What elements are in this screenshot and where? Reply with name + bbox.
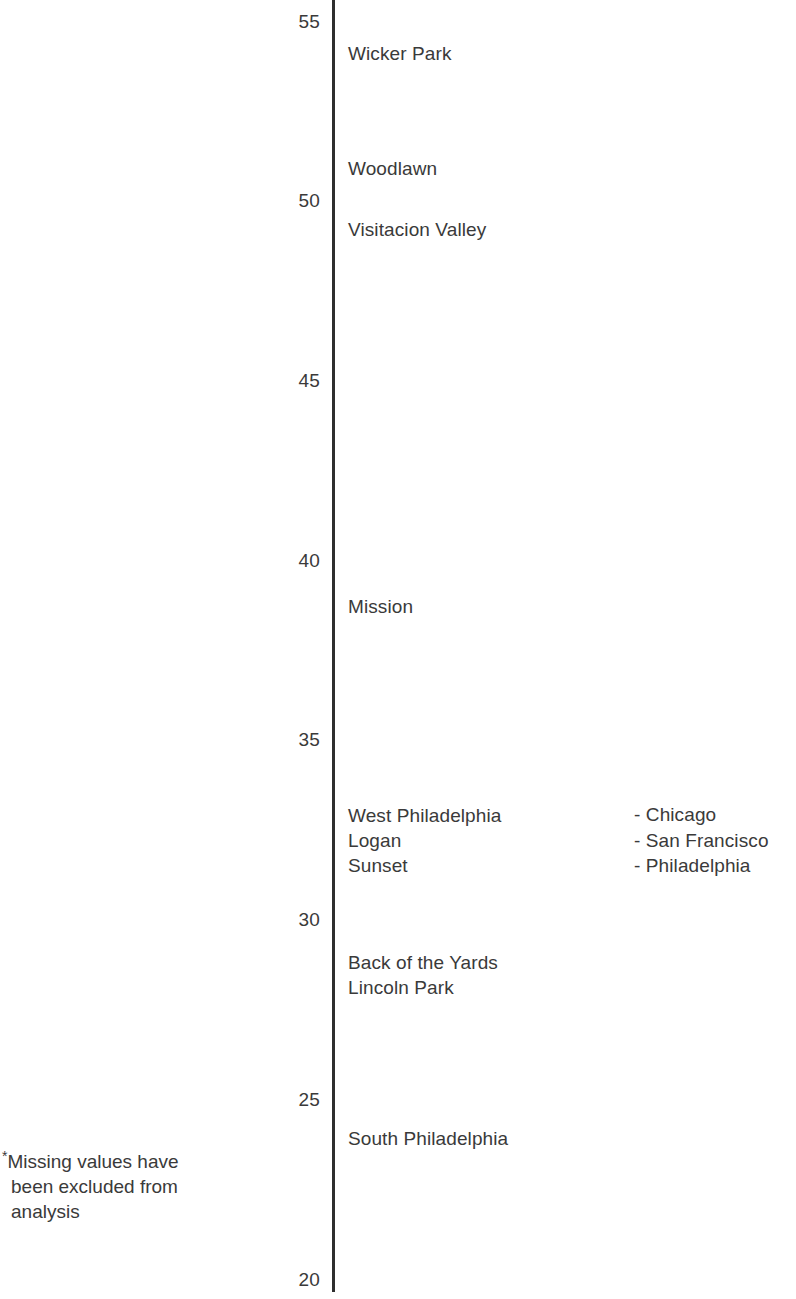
- y-axis-line: [332, 0, 335, 1292]
- legend-item: - San Francisco: [634, 828, 769, 854]
- y-tick-label: 40: [268, 551, 320, 570]
- y-tick-label: 55: [268, 12, 320, 31]
- legend-item: - Philadelphia: [634, 853, 769, 879]
- y-tick-label: 20: [268, 1270, 320, 1289]
- data-point-label: Visitacion Valley: [348, 220, 486, 239]
- footnote-line-2: been excluded from: [2, 1174, 232, 1199]
- y-tick-label: 35: [268, 730, 320, 749]
- chart-canvas: 2025303540455055 Wicker ParkWoodlawnVisi…: [0, 0, 796, 1299]
- y-tick-label: 25: [268, 1090, 320, 1109]
- footnote: *Missing values have been excluded from …: [2, 1149, 232, 1224]
- y-tick-label: 45: [268, 371, 320, 390]
- data-point-label: West Philadelphia: [348, 806, 501, 825]
- legend-item: - Chicago: [634, 802, 769, 828]
- data-point-label: Logan: [348, 831, 401, 850]
- footnote-text-1: Missing values have: [7, 1151, 178, 1172]
- chart-legend: - Chicago - San Francisco - Philadelphia: [634, 802, 769, 879]
- data-point-label: Lincoln Park: [348, 978, 454, 997]
- data-point-label: Wicker Park: [348, 44, 452, 63]
- y-tick-label: 50: [268, 191, 320, 210]
- data-point-label: South Philadelphia: [348, 1129, 508, 1148]
- data-point-label: Sunset: [348, 856, 408, 875]
- data-point-label: Woodlawn: [348, 159, 437, 178]
- y-tick-label: 30: [268, 910, 320, 929]
- footnote-line-3: analysis: [2, 1199, 232, 1224]
- footnote-line-1: *Missing values have: [2, 1149, 232, 1174]
- data-point-label: Back of the Yards: [348, 953, 498, 972]
- data-point-label: Mission: [348, 597, 413, 616]
